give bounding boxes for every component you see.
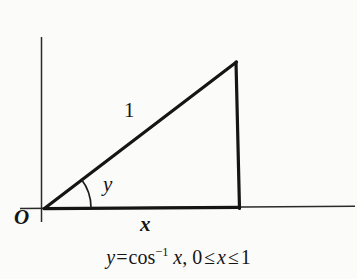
geometry-diagram [0, 0, 357, 279]
hypotenuse-length-label: 1 [124, 100, 135, 121]
caption-equals: = [115, 246, 128, 268]
triangle-vertical-leg [236, 62, 240, 209]
caption-argument: x [173, 246, 182, 268]
caption-le-left: ≤ [202, 247, 217, 268]
caption-le-right: ≤ [226, 247, 241, 268]
triangle-hypotenuse [45, 62, 237, 208]
caption-exponent: −1 [155, 245, 168, 259]
caption-upper-bound: 1 [241, 246, 251, 268]
base-length-label: x [140, 214, 151, 235]
triangle-base-leg [44, 207, 240, 208]
angle-arc [82, 180, 92, 208]
figure-caption: y=cos−1 x, 0≤x≤1 [0, 246, 357, 269]
axes-group [20, 37, 355, 222]
caption-lower-bound: 0 [192, 246, 202, 268]
caption-comma: , [182, 246, 187, 268]
caption-lhs: y [106, 246, 115, 268]
triangle-group [44, 62, 240, 209]
caption-function: cos [129, 246, 156, 268]
figure-container: O 1 y x y=cos−1 x, 0≤x≤1 [0, 0, 357, 279]
origin-label: O [14, 207, 29, 228]
caption-variable: x [217, 246, 226, 268]
angle-label: y [103, 174, 112, 195]
